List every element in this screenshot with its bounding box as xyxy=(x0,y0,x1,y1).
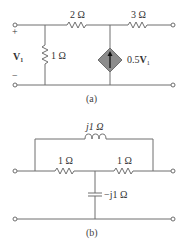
input-voltage-label: V1 xyxy=(13,51,23,63)
label-1-ohm: 1 Ω xyxy=(51,50,66,61)
inductor xyxy=(85,134,106,139)
resistor-1-ohm-right xyxy=(114,168,133,174)
label-capacitor: −j1 Ω xyxy=(104,189,127,200)
terminal xyxy=(13,169,17,173)
terminal xyxy=(171,217,175,221)
circuit-a: 2 Ω 3 Ω 1 Ω + − V1 0.5V1 (a) xyxy=(12,9,175,105)
terminal xyxy=(171,23,175,27)
resistor-2-ohm xyxy=(67,22,86,28)
terminal xyxy=(171,169,175,173)
resistor-1-ohm-left xyxy=(55,168,74,174)
resistor-3-ohm xyxy=(128,22,147,28)
circuit-diagrams: 2 Ω 3 Ω 1 Ω + − V1 0.5V1 (a) xyxy=(0,0,189,242)
label-inductor: j1 Ω xyxy=(84,121,104,132)
source-value-label: 0.5V1 xyxy=(127,54,150,66)
circuit-b: j1 Ω 1 Ω 1 Ω −j1 Ω (b) xyxy=(13,121,175,239)
minus-sign: − xyxy=(12,70,18,81)
resistor-1-ohm xyxy=(42,45,48,64)
plus-sign: + xyxy=(12,26,18,37)
terminal xyxy=(13,83,17,87)
label-3-ohm: 3 Ω xyxy=(131,9,146,20)
label-2-ohm: 2 Ω xyxy=(70,9,85,20)
caption-a: (a) xyxy=(86,93,97,105)
terminal xyxy=(13,217,17,221)
terminal xyxy=(171,83,175,87)
label-resistor-left: 1 Ω xyxy=(58,155,73,166)
caption-b: (b) xyxy=(86,227,98,239)
label-resistor-right: 1 Ω xyxy=(117,155,132,166)
